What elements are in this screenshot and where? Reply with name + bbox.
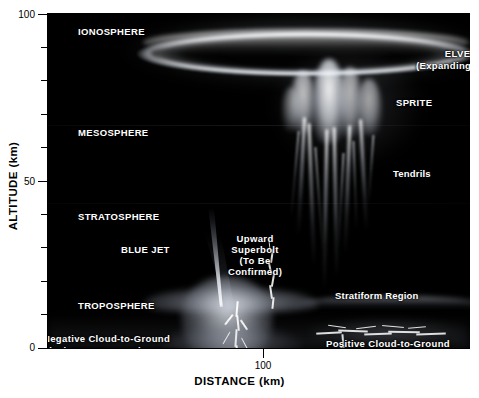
- x-axis-title: DISTANCE (km): [0, 375, 479, 387]
- label-elve: ELVE (Expanding Disk): [416, 48, 470, 71]
- label-troposphere: TROPOSPHERE: [78, 300, 155, 312]
- transient-luminous-events-figure: IONOSPHERE MESOSPHERE STRATOSPHERE TROPO…: [0, 0, 479, 398]
- x-axis-line: [47, 348, 470, 349]
- x-tick-100: [263, 349, 264, 358]
- label-ionosphere: IONOSPHERE: [78, 26, 145, 38]
- y-tick-label-100: 100: [18, 9, 35, 20]
- label-upward-superbolt: Upward Superbolt (To Be Confirmed): [228, 233, 282, 277]
- y-tick-80: [41, 80, 48, 81]
- label-positive-cloud-to-ground: Positive Cloud-to-Ground Flash with "Spi…: [326, 338, 470, 348]
- y-tick-60: [41, 147, 48, 148]
- x-tick-label-100: 100: [255, 360, 272, 371]
- label-superbolt-line1: Upward: [237, 233, 274, 244]
- label-negcg-line1: Negative Cloud-to-Ground: [48, 333, 170, 344]
- label-stratiform-region: Stratiform Region: [335, 290, 419, 302]
- plot-area: IONOSPHERE MESOSPHERE STRATOSPHERE TROPO…: [48, 13, 470, 348]
- y-tick-20: [41, 281, 48, 282]
- label-mesosphere: MESOSPHERE: [78, 127, 149, 139]
- y-tick-10: [41, 314, 48, 315]
- label-elve-line1: ELVE: [445, 48, 470, 59]
- y-tick-70: [41, 114, 48, 115]
- label-sprite: SPRITE: [396, 97, 432, 109]
- y-tick-90: [41, 47, 48, 48]
- label-negative-cloud-to-ground: Negative Cloud-to-Ground Flash Near Conv…: [48, 333, 178, 348]
- label-elve-line2: (Expanding Disk): [416, 60, 470, 71]
- label-superbolt-line3: (To Be: [240, 255, 271, 266]
- sprite-column-5: [282, 87, 300, 131]
- label-superbolt-line2: Superbolt: [231, 244, 278, 255]
- y-tick-100: [38, 14, 48, 15]
- label-tendrils: Tendrils: [393, 168, 431, 180]
- label-blue-jet: BLUE JET: [121, 244, 170, 256]
- label-poscg-line1: Positive Cloud-to-Ground: [326, 338, 450, 348]
- label-superbolt-line4: Confirmed): [228, 266, 282, 277]
- y-tick-0: [38, 348, 48, 349]
- y-tick-40: [41, 214, 48, 215]
- y-tick-30: [41, 247, 48, 248]
- label-stratosphere: STRATOSPHERE: [78, 211, 159, 223]
- y-tick-label-0: 0: [29, 342, 35, 353]
- y-tick-50: [38, 181, 48, 182]
- y-axis-title: ALTITUDE (km): [7, 126, 19, 246]
- y-tick-label-50: 50: [24, 176, 35, 187]
